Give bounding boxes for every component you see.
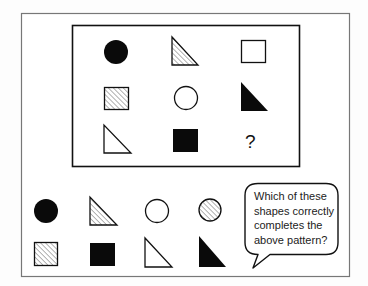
- bubble-question-text: Which of these shapes correctly complete…: [254, 189, 340, 247]
- grid-hatched-square: [105, 88, 129, 110]
- missing-shape-question-mark: ?: [245, 131, 256, 153]
- grid-black-square: [173, 129, 198, 152]
- option-black-circle[interactable]: [34, 199, 58, 223]
- option-white-circle[interactable]: [146, 200, 169, 223]
- option-black-square[interactable]: [90, 243, 115, 266]
- grid-white-circle: [175, 87, 198, 110]
- option-hatched-circle[interactable]: [199, 199, 221, 221]
- option-hatched-square[interactable]: [35, 243, 58, 266]
- grid-white-square: [242, 41, 266, 63]
- grid-black-circle: [104, 40, 128, 64]
